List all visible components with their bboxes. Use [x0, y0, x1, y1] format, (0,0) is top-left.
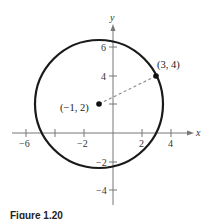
edge-point [153, 73, 159, 79]
x-axis-arrow-icon [187, 131, 194, 136]
x-tick-label: −2 [77, 138, 88, 149]
center-point-label: (−1, 2) [60, 102, 89, 114]
x-tick-label: 2 [139, 138, 144, 149]
x-axis-label: x [195, 127, 201, 138]
y-axis-arrow-icon [111, 24, 116, 31]
y-tick-label: 6 [101, 42, 106, 53]
y-tick-label: −4 [96, 185, 107, 196]
y-axis-label: y [109, 12, 115, 23]
figure-caption: Figure 1.20 [10, 210, 63, 219]
circle-plot: x y −6 −2 2 4 6 4 −2 −4 (−1, 2) (3, 4) [0, 0, 206, 219]
radius-segment [99, 76, 156, 104]
center-point [96, 101, 102, 107]
x-tick-label: −6 [19, 138, 30, 149]
y-tick-label: −2 [96, 157, 107, 168]
x-tick-label: 4 [168, 138, 173, 149]
y-tick-label: 4 [101, 71, 106, 82]
edge-point-label: (3, 4) [157, 59, 180, 71]
